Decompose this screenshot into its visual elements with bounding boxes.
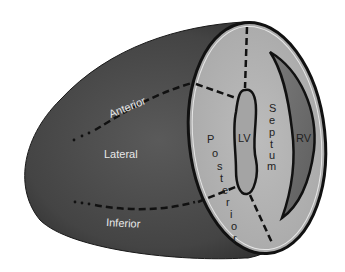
svg-text:o: o <box>231 220 237 232</box>
svg-text:S: S <box>269 102 276 114</box>
label-lateral: Lateral <box>104 148 138 160</box>
label-septum: S e p t u m <box>267 102 276 172</box>
heart-illustration: Anterior Lateral Inferior LV RV S e p t … <box>0 0 345 272</box>
svg-text:r: r <box>226 196 230 208</box>
svg-text:t: t <box>220 172 223 184</box>
svg-text:p: p <box>269 126 275 138</box>
label-inferior: Inferior <box>106 216 141 230</box>
svg-text:r: r <box>233 232 237 244</box>
svg-text:e: e <box>269 114 275 126</box>
svg-text:i: i <box>230 208 232 220</box>
svg-text:P: P <box>207 133 214 145</box>
label-rv: RV <box>296 132 312 144</box>
heart-diagram: Anterior Lateral Inferior LV RV S e p t … <box>0 0 345 272</box>
svg-text:o: o <box>212 147 218 159</box>
svg-text:s: s <box>217 160 223 172</box>
svg-text:e: e <box>222 184 228 196</box>
label-lv: LV <box>238 132 251 144</box>
svg-text:m: m <box>267 160 276 172</box>
